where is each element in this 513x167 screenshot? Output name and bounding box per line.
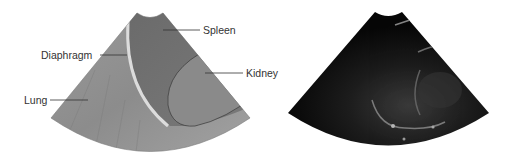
spleen-label: Spleen <box>203 24 236 36</box>
illustration-svg <box>0 0 513 167</box>
kidney-label: Kidney <box>246 67 278 79</box>
ultrasound-image <box>288 12 489 146</box>
figure: Spleen Diaphragm Kidney Lung <box>0 0 513 167</box>
lung-label: Lung <box>24 94 47 106</box>
diaphragm-label: Diaphragm <box>41 49 92 61</box>
